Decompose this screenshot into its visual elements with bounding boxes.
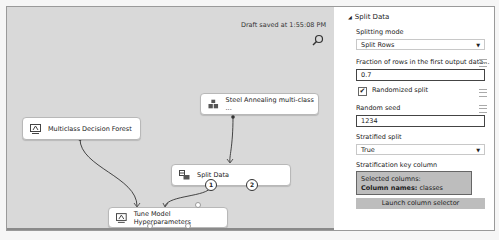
experiment-canvas[interactable]: Draft saved at 1:55:08 PM ▲ Steel Anneal…	[7, 7, 334, 229]
node-label: Split Data	[197, 171, 229, 179]
stratification-key-label: Stratification key column	[356, 161, 437, 169]
parameter-menu-icon[interactable]	[479, 89, 487, 97]
split-icon	[179, 170, 190, 180]
node-tune-model-hyperparameters[interactable]: Tune Model Hyperparameters	[108, 207, 228, 228]
canvas-bottom-border	[7, 228, 334, 230]
search-icon[interactable]	[312, 34, 324, 46]
dataset-icon	[208, 99, 219, 109]
section-header[interactable]: ◢Split Data	[348, 13, 389, 21]
input-port[interactable]	[195, 202, 201, 208]
node-label: Steel Annealing multi-class ...	[226, 96, 318, 112]
output-port-1[interactable]: 1	[205, 179, 217, 191]
properties-panel: ◢Split Data Splitting mode Split Rows ▼ …	[336, 7, 492, 229]
parameter-menu-icon[interactable]	[479, 59, 487, 67]
randomized-split-checkbox[interactable]: ✔	[358, 87, 367, 96]
selected-columns-value: Column names: classes	[361, 184, 467, 193]
splitting-mode-select[interactable]: Split Rows ▼	[356, 39, 485, 50]
node-multiclass-decision-forest[interactable]: Multiclass Decision Forest	[22, 117, 141, 140]
model-icon	[116, 213, 127, 223]
stratified-split-label: Stratified split	[356, 133, 402, 141]
fraction-input[interactable]: 0.7	[356, 69, 485, 81]
randomized-split-label: Randomized split	[372, 86, 428, 94]
splitting-mode-label: Splitting mode	[356, 28, 404, 36]
output-port-2[interactable]: 2	[246, 179, 258, 191]
model-icon	[30, 124, 41, 134]
splitting-mode-value: Split Rows	[361, 41, 394, 49]
collapse-triangle-icon[interactable]: ◢	[348, 14, 352, 20]
node-label: Multiclass Decision Forest	[48, 125, 132, 133]
dropdown-arrow-icon: ▼	[476, 145, 480, 156]
fraction-label: Fraction of rows in the first output dat…	[356, 58, 489, 66]
random-seed-label: Random seed	[356, 104, 401, 112]
launch-column-selector-button[interactable]: Launch column selector	[356, 198, 485, 209]
stratified-split-select[interactable]: True ▼	[356, 144, 485, 155]
parameter-menu-icon[interactable]	[479, 105, 487, 113]
stratified-split-value: True	[361, 146, 375, 154]
selected-columns-box: Selected columns: Column names: classes	[356, 171, 472, 195]
selected-columns-heading: Selected columns:	[361, 175, 467, 184]
node-steel-annealing[interactable]: Steel Annealing multi-class ...	[200, 93, 319, 115]
section-title: Split Data	[355, 13, 389, 21]
random-seed-input[interactable]: 1234	[356, 115, 485, 127]
draft-saved-status: Draft saved at 1:55:08 PM	[241, 21, 326, 29]
node-split-data[interactable]: Split Data	[171, 164, 291, 186]
dropdown-arrow-icon: ▼	[476, 40, 480, 51]
